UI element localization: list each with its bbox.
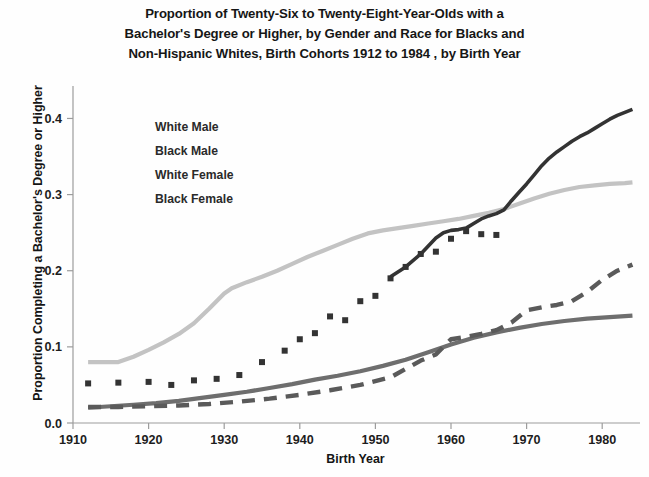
data-point-marker <box>478 231 484 237</box>
y-axis: 0.00.10.20.30.4 <box>44 86 73 431</box>
legend-entry-black-male: Black Male <box>155 144 218 158</box>
data-point-marker <box>433 249 439 255</box>
data-point-marker <box>191 377 197 383</box>
x-tick-label: 1950 <box>361 433 389 447</box>
data-point-marker <box>214 376 220 382</box>
y-tick-label: 0.3 <box>44 188 62 202</box>
x-tick-label: 1970 <box>513 433 541 447</box>
series-line <box>88 182 632 362</box>
legend-entry-white-female: White Female <box>155 168 234 182</box>
x-tick-label: 1940 <box>286 433 314 447</box>
data-point-marker <box>327 313 333 319</box>
legend: White MaleBlack MaleWhite FemaleBlack Fe… <box>155 120 234 206</box>
y-tick-label: 0.4 <box>44 112 62 126</box>
x-tick-label: 1980 <box>588 433 616 447</box>
x-tick-label: 1960 <box>437 433 465 447</box>
data-point-marker <box>448 236 454 242</box>
legend-entry-black-female: Black Female <box>155 192 233 206</box>
data-point-marker <box>146 379 152 385</box>
plot-area: 0.00.10.20.30.4 191019201930194019501960… <box>0 0 649 477</box>
data-point-marker <box>282 348 288 354</box>
data-point-marker <box>85 380 91 386</box>
chart-figure: Proportion of Twenty-Six to Twenty-Eight… <box>0 0 649 477</box>
x-tick-label: 1920 <box>135 433 163 447</box>
x-axis: 19101920193019401950196019701980 <box>59 423 640 447</box>
data-point-marker <box>312 330 318 336</box>
data-point-marker <box>357 298 363 304</box>
data-point-marker <box>236 372 242 378</box>
y-tick-label: 0.0 <box>44 417 62 431</box>
data-point-marker <box>115 380 121 386</box>
series-line <box>391 109 633 277</box>
data-point-marker <box>259 359 265 365</box>
series-line <box>88 316 632 408</box>
y-tick-label: 0.1 <box>44 340 62 354</box>
x-tick-label: 1930 <box>210 433 238 447</box>
x-tick-label: 1910 <box>59 433 87 447</box>
data-point-marker <box>342 317 348 323</box>
data-point-marker <box>297 336 303 342</box>
y-tick-label: 0.2 <box>44 264 62 278</box>
data-point-marker <box>493 232 499 238</box>
data-point-marker <box>168 382 174 388</box>
data-point-marker <box>372 293 378 299</box>
legend-entry-white-male: White Male <box>155 120 219 134</box>
